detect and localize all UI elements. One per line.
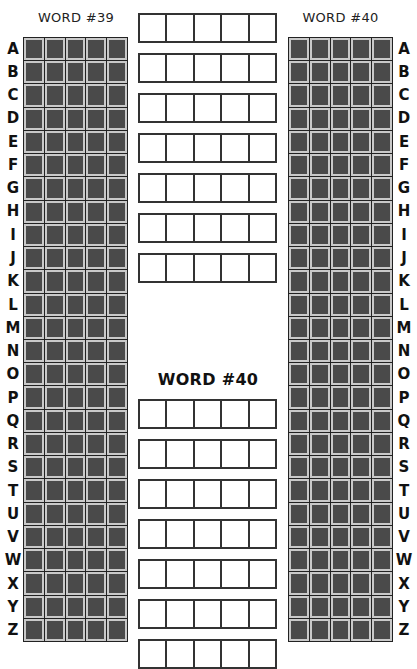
board-cell-v-2[interactable] [45, 526, 65, 548]
board-cell-z-1[interactable] [289, 619, 309, 641]
board-cell-m-4[interactable] [86, 317, 106, 339]
guess-letter-box[interactable] [140, 175, 167, 201]
board-cell-a-5[interactable] [107, 38, 127, 60]
board-cell-h-5[interactable] [372, 201, 392, 223]
board-cell-i-2[interactable] [45, 224, 65, 246]
guess-letter-box[interactable] [167, 481, 194, 507]
board-cell-n-1[interactable] [24, 340, 44, 362]
board-cell-f-4[interactable] [351, 154, 371, 176]
board-cell-e-1[interactable] [289, 131, 309, 153]
board-cell-g-5[interactable] [107, 177, 127, 199]
board-cell-p-2[interactable] [45, 386, 65, 408]
board-cell-g-1[interactable] [289, 177, 309, 199]
board-cell-g-2[interactable] [310, 177, 330, 199]
guess-letter-box[interactable] [140, 55, 167, 81]
board-cell-p-5[interactable] [107, 386, 127, 408]
board-cell-r-3[interactable] [331, 433, 351, 455]
board-cell-l-5[interactable] [372, 294, 392, 316]
board-cell-r-3[interactable] [66, 433, 86, 455]
board-cell-j-1[interactable] [24, 247, 44, 269]
board-cell-c-3[interactable] [66, 84, 86, 106]
board-cell-r-4[interactable] [86, 433, 106, 455]
guess-letter-box[interactable] [250, 481, 275, 507]
board-cell-n-2[interactable] [310, 340, 330, 362]
board-cell-j-3[interactable] [66, 247, 86, 269]
board-cell-b-1[interactable] [24, 61, 44, 83]
board-cell-m-1[interactable] [289, 317, 309, 339]
board-cell-y-5[interactable] [107, 596, 127, 618]
guess-letter-box[interactable] [167, 561, 194, 587]
board-cell-v-4[interactable] [351, 526, 371, 548]
board-cell-l-3[interactable] [66, 294, 86, 316]
board-cell-g-4[interactable] [351, 177, 371, 199]
guess-letter-box[interactable] [250, 561, 275, 587]
guess-letter-box[interactable] [250, 601, 275, 627]
board-cell-q-3[interactable] [331, 410, 351, 432]
board-cell-m-3[interactable] [66, 317, 86, 339]
board-cell-g-5[interactable] [372, 177, 392, 199]
board-cell-o-4[interactable] [86, 363, 106, 385]
board-cell-d-2[interactable] [45, 108, 65, 130]
board-cell-s-4[interactable] [86, 456, 106, 478]
board-cell-u-4[interactable] [351, 503, 371, 525]
guess-letter-box[interactable] [167, 255, 194, 281]
guess-letter-box[interactable] [167, 135, 194, 161]
board-cell-b-4[interactable] [86, 61, 106, 83]
board-cell-n-4[interactable] [86, 340, 106, 362]
board-cell-p-4[interactable] [351, 386, 371, 408]
guess-letter-box[interactable] [222, 441, 249, 467]
board-cell-n-3[interactable] [331, 340, 351, 362]
board-cell-x-5[interactable] [107, 572, 127, 594]
board-cell-v-3[interactable] [66, 526, 86, 548]
guess-letter-box[interactable] [250, 55, 275, 81]
board-cell-a-4[interactable] [351, 38, 371, 60]
board-cell-h-4[interactable] [86, 201, 106, 223]
board-cell-g-3[interactable] [66, 177, 86, 199]
guess-letter-box[interactable] [250, 641, 275, 667]
board-cell-t-5[interactable] [372, 479, 392, 501]
board-cell-q-5[interactable] [372, 410, 392, 432]
guess-letter-box[interactable] [195, 135, 222, 161]
guess-letter-box[interactable] [167, 215, 194, 241]
board-cell-t-2[interactable] [45, 479, 65, 501]
board-cell-s-1[interactable] [289, 456, 309, 478]
board-cell-w-1[interactable] [24, 549, 44, 571]
board-cell-z-2[interactable] [310, 619, 330, 641]
board-cell-z-3[interactable] [66, 619, 86, 641]
guess-letter-box[interactable] [250, 521, 275, 547]
board-cell-k-3[interactable] [331, 270, 351, 292]
board-cell-c-5[interactable] [372, 84, 392, 106]
board-cell-l-1[interactable] [24, 294, 44, 316]
guess-letter-box[interactable] [140, 95, 167, 121]
board-cell-k-4[interactable] [86, 270, 106, 292]
board-cell-w-3[interactable] [66, 549, 86, 571]
board-cell-u-2[interactable] [310, 503, 330, 525]
board-cell-y-2[interactable] [310, 596, 330, 618]
board-cell-n-2[interactable] [45, 340, 65, 362]
board-cell-q-2[interactable] [310, 410, 330, 432]
board-cell-f-3[interactable] [66, 154, 86, 176]
board-cell-c-4[interactable] [351, 84, 371, 106]
board-cell-a-3[interactable] [331, 38, 351, 60]
board-cell-d-4[interactable] [351, 108, 371, 130]
board-cell-j-4[interactable] [86, 247, 106, 269]
guess-letter-box[interactable] [195, 561, 222, 587]
board-cell-b-4[interactable] [351, 61, 371, 83]
board-cell-h-5[interactable] [107, 201, 127, 223]
board-cell-l-4[interactable] [351, 294, 371, 316]
board-cell-z-5[interactable] [372, 619, 392, 641]
board-cell-z-5[interactable] [107, 619, 127, 641]
board-cell-o-2[interactable] [45, 363, 65, 385]
guess-letter-box[interactable] [222, 175, 249, 201]
board-cell-t-3[interactable] [331, 479, 351, 501]
guess-letter-box[interactable] [140, 135, 167, 161]
board-cell-m-1[interactable] [24, 317, 44, 339]
board-cell-u-1[interactable] [24, 503, 44, 525]
board-cell-e-1[interactable] [24, 131, 44, 153]
board-cell-y-1[interactable] [289, 596, 309, 618]
guess-letter-box[interactable] [195, 441, 222, 467]
board-cell-g-1[interactable] [24, 177, 44, 199]
board-cell-o-4[interactable] [351, 363, 371, 385]
board-cell-q-5[interactable] [107, 410, 127, 432]
board-cell-g-4[interactable] [86, 177, 106, 199]
